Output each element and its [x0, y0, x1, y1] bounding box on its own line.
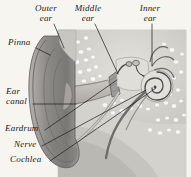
label-pinna: Pinna: [8, 38, 31, 48]
label-ear-canal: Ear canal: [6, 87, 27, 106]
ear-diagram-illustration: [0, 0, 191, 177]
label-cochlea: Cochlea: [10, 155, 41, 165]
ear-anatomy-figure: Outer ear Middle ear Inner ear Pinna Ear…: [0, 0, 191, 177]
label-nerve: Nerve: [14, 140, 37, 150]
label-inner-ear: Inner ear: [130, 4, 170, 23]
label-middle-ear: Middle ear: [68, 4, 108, 23]
label-eardrum: Eardrum: [5, 124, 39, 134]
label-outer-ear: Outer ear: [28, 4, 64, 23]
